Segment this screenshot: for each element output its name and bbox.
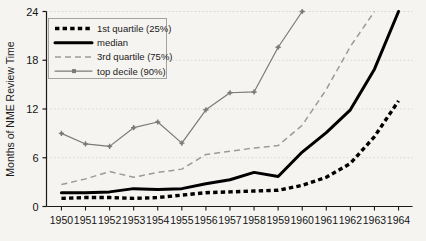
series-marker-dot	[60, 132, 63, 135]
series-marker-dot	[277, 46, 280, 49]
x-tick-label: 1951	[74, 214, 98, 226]
series-marker-dot	[205, 109, 208, 112]
x-tick-label: 1962	[339, 214, 363, 226]
y-tick-label: 0	[32, 201, 38, 213]
x-tick-label: 1959	[266, 214, 290, 226]
chart-container: 06121824 1950195119521953195419551956195…	[0, 0, 426, 241]
legend-swatch-marker	[72, 69, 76, 73]
x-tick-label: 1953	[122, 214, 146, 226]
y-tick-label: 12	[26, 103, 38, 115]
y-axis-title: Months of NME Review Time	[4, 41, 16, 177]
x-tick-label: 1961	[315, 214, 339, 226]
legend-item-label: median	[97, 37, 128, 48]
series-marker-dot	[132, 126, 135, 129]
x-tick-label: 1956	[194, 214, 218, 226]
x-tick-label: 1963	[363, 214, 387, 226]
x-tick-label: 1950	[50, 214, 74, 226]
y-tick-label: 6	[32, 152, 38, 164]
series-marker-dot	[156, 121, 159, 124]
legend-item-label: top decile (90%)	[97, 66, 166, 77]
x-tick-label: 1954	[146, 214, 170, 226]
series-marker-dot	[84, 143, 87, 146]
series-marker-dot	[108, 145, 111, 148]
x-tick-label: 1952	[98, 214, 122, 226]
x-tick-label: 1957	[218, 214, 242, 226]
x-tick-label: 1958	[242, 214, 266, 226]
nme-review-time-line-chart: 06121824 1950195119521953195419551956195…	[0, 0, 426, 241]
x-tick-label: 1964	[387, 214, 411, 226]
y-tick-label: 24	[26, 6, 38, 18]
x-tick-label: 1955	[170, 214, 194, 226]
legend-item-label: 3rd quartile (75%)	[97, 51, 173, 62]
legend: 1st quartile (25%)median3rd quartile (75…	[49, 19, 173, 79]
series-marker-dot	[229, 91, 232, 94]
y-axis-title-text: Months of NME Review Time	[4, 41, 16, 177]
series-marker-dot	[253, 91, 256, 94]
y-tick-label: 18	[26, 54, 38, 66]
x-tick-label: 1960	[291, 214, 315, 226]
series-marker-dot	[181, 142, 184, 145]
series-marker-dot	[301, 10, 304, 13]
legend-item-label: 1st quartile (25%)	[97, 23, 171, 34]
